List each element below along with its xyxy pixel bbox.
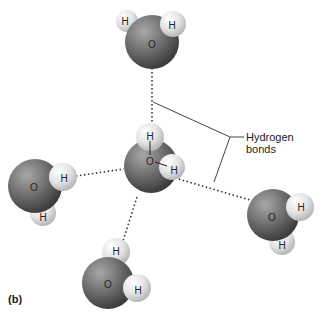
atom-label: O (268, 212, 276, 223)
atom-label: H (297, 202, 304, 213)
atom-label: H (39, 212, 46, 223)
atom-label: H (134, 285, 141, 296)
water-hydrogen-bond-diagram: H H O H O H O H H O H H H O H (0, 0, 326, 321)
panel-label: (b) (8, 293, 22, 305)
atom-label: H (168, 20, 175, 31)
atom-label: O (30, 182, 38, 193)
hbond-bottom (122, 197, 137, 244)
atom-label: O (146, 156, 154, 167)
water-molecule-top: H H O (116, 10, 186, 69)
water-molecule-right: O H H (247, 189, 314, 255)
atom-label: H (121, 16, 128, 27)
atom-label: O (104, 279, 112, 290)
hbond-left (76, 169, 124, 176)
atom-label: H (112, 246, 119, 257)
water-molecule-center: H O H (124, 123, 185, 193)
atom-label: H (278, 240, 285, 251)
water-molecule-left: O H H (8, 159, 77, 226)
hydrogen-bonds-label: Hydrogen bonds (246, 131, 326, 155)
atom-label: H (146, 131, 153, 142)
atom-label: H (60, 173, 67, 184)
water-molecule-bottom: H O H (82, 238, 151, 309)
atom-label: O (148, 39, 156, 50)
atom-label: H (170, 165, 177, 176)
hbond-right (175, 178, 250, 200)
